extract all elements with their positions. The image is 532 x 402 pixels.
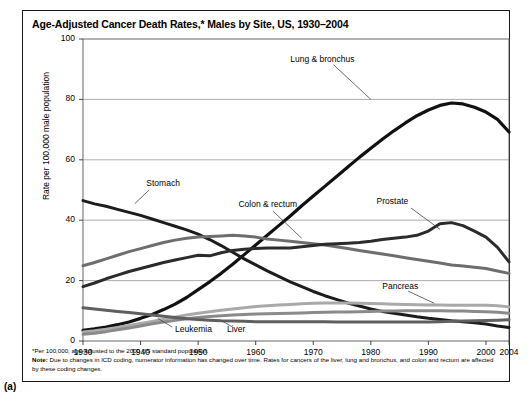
y-tick-label: 60 xyxy=(49,154,75,164)
series-label-liver: Liver xyxy=(227,324,245,334)
footnote-note: Note: Due to changes in ICD coding, nume… xyxy=(32,356,500,374)
chart-footnotes: *Per 100,000, age-adjusted to the 2000 U… xyxy=(32,347,500,374)
series-label-leukemia: Leukemia xyxy=(175,324,212,334)
leader-line xyxy=(333,65,370,100)
series-label-colon-rectum: Colon & rectum xyxy=(238,199,297,209)
series-line-prostate xyxy=(83,223,509,287)
panel-label: (a) xyxy=(4,381,16,392)
y-tick-label: 0 xyxy=(49,335,75,345)
series-label-pancreas: Pancreas xyxy=(382,281,418,291)
leader-line xyxy=(273,211,302,238)
figure-panel: Age-Adjusted Cancer Death Rates,* Males … xyxy=(22,10,510,382)
series-label-lung-bronchus: Lung & bronchus xyxy=(290,54,354,64)
y-tick-label: 80 xyxy=(49,93,75,103)
note-label: Note: xyxy=(32,356,48,363)
leader-line xyxy=(135,190,149,204)
footnote-star: *Per 100,000, age-adjusted to the 2000 U… xyxy=(32,347,500,356)
y-tick-label: 20 xyxy=(49,275,75,285)
leader-line xyxy=(411,208,440,229)
plot-frame xyxy=(83,39,509,341)
chart-canvas xyxy=(23,11,511,383)
series-label-prostate: Prostate xyxy=(377,196,409,206)
leader-line xyxy=(408,291,434,303)
series-label-stomach: Stomach xyxy=(146,178,180,188)
plot-area: Rate per 100,000 male population 0204060… xyxy=(23,11,511,383)
y-tick-label: 100 xyxy=(49,33,75,43)
note-body: Due to changes in ICD coding, numerator … xyxy=(32,356,493,372)
y-tick-label: 40 xyxy=(49,214,75,224)
